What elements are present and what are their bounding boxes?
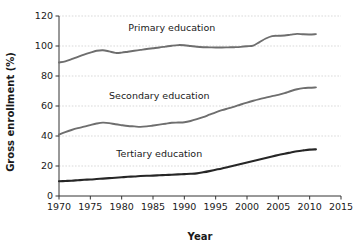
data-series [59,34,316,181]
x-tick-label-1975: 1975 [78,201,102,212]
y-tick-label-80: 80 [41,70,53,81]
x-tick-label-2000: 2000 [235,201,259,212]
y-tick-label-0: 0 [47,190,53,201]
y-tick-label-20: 20 [41,160,53,171]
x-tick-label-2005: 2005 [266,201,290,212]
y-tick-label-40: 40 [41,130,53,141]
x-tick-label-1980: 1980 [110,201,134,212]
chart-container: 020406080100120 197019751980198519901995… [0,0,364,247]
y-tick-label-100: 100 [35,40,53,51]
x-tick-label-2010: 2010 [298,201,322,212]
x-tick-label-1985: 1985 [141,201,165,212]
y-tick-label-60: 60 [41,100,53,111]
series-label-secondary-education: Secondary education [109,90,209,101]
x-axis-tick-labels: 1970197519801985199019952000200520102015 [47,201,353,212]
y-tick-label-120: 120 [35,10,53,21]
y-axis-title: Gross enrollment (%) [5,52,16,172]
x-tick-label-1990: 1990 [172,201,196,212]
x-tick-label-1995: 1995 [204,201,228,212]
y-axis-tick-labels: 020406080100120 [35,10,53,201]
tick-marks [56,16,342,200]
line-chart: 020406080100120 197019751980198519901995… [0,0,364,247]
x-tick-label-1970: 1970 [47,201,71,212]
x-tick-label-2015: 2015 [329,201,353,212]
series-label-primary-education: Primary education [128,22,215,33]
x-axis-title: Year [187,231,213,242]
series-label-tertiary-education: Tertiary education [115,148,202,159]
series-line-primary-education [59,34,316,63]
series-inline-labels: Primary educationSecondary educationTert… [109,22,215,159]
